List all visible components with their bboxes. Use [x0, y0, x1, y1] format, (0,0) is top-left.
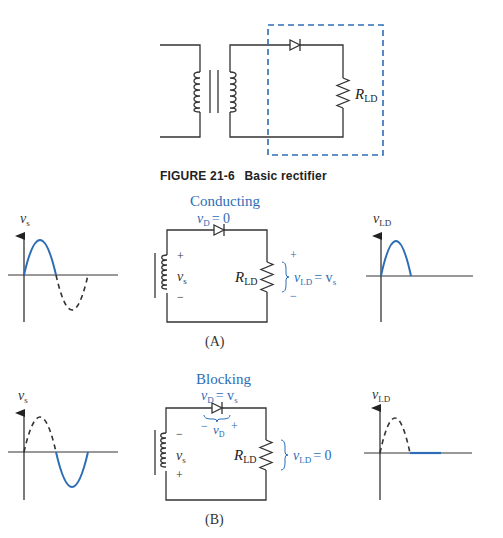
panel-b-label: (B)	[205, 512, 224, 528]
blocking-label: Blocking	[196, 371, 251, 387]
figure-number: FIGURE 21-6	[160, 169, 235, 183]
svg-text:vs: vs	[177, 269, 187, 286]
panel-b-diode-eq: vD= vs	[201, 388, 238, 405]
panel-b-circuit	[155, 402, 288, 500]
conducting-label: Conducting	[190, 193, 260, 209]
svg-text:−: −	[177, 290, 184, 304]
resistor-icon	[260, 440, 272, 470]
panel-b-resistor-label: RLD	[233, 447, 257, 465]
panel-a-load-eq: vLD= vs	[294, 270, 337, 287]
svg-text:−: −	[201, 419, 208, 433]
primary-coil-icon	[194, 72, 200, 112]
svg-text:+: +	[290, 248, 297, 262]
coil-icon	[162, 255, 167, 289]
svg-text:vLD: vLD	[372, 387, 391, 404]
rectifier-diagram: RLD vs Conducting vD= 0 + vs − RLD + vLD…	[0, 0, 503, 538]
secondary-coil-icon	[230, 72, 236, 112]
svg-text:−: −	[290, 289, 297, 303]
coil-icon	[161, 433, 166, 467]
svg-text:vs: vs	[20, 211, 30, 228]
panel-a-circuit	[155, 224, 289, 322]
figure-title: Basic rectifier	[244, 169, 326, 183]
svg-text:+: +	[177, 249, 184, 263]
panel-a-source-graph: vs	[8, 211, 118, 322]
svg-text:−: −	[176, 427, 183, 441]
svg-text:vs: vs	[18, 388, 28, 405]
svg-text:vLD: vLD	[373, 211, 392, 228]
top-resistor-label: RLD	[354, 86, 378, 104]
panel-b-source-graph: vs	[8, 388, 118, 500]
resistor-icon	[337, 78, 349, 108]
diode-icon	[290, 39, 300, 51]
panel-a-load-graph: vLD	[366, 211, 473, 322]
svg-text:vs: vs	[176, 448, 186, 465]
panel-a-resistor-label: RLD	[234, 269, 258, 287]
figure-caption: FIGURE 21-6 Basic rectifier	[160, 169, 327, 183]
svg-text:+: +	[176, 468, 183, 482]
panel-a-label: (A)	[205, 334, 224, 350]
svg-text:vD: vD	[213, 422, 225, 439]
resistor-icon	[261, 262, 273, 292]
panel-b-load-graph: vLD	[364, 387, 472, 500]
panel-a-diode-eq: vD= 0	[197, 211, 230, 228]
top-circuit	[160, 39, 349, 137]
panel-b-load-eq: vLD= 0	[293, 448, 332, 465]
svg-text:+: +	[231, 419, 238, 433]
